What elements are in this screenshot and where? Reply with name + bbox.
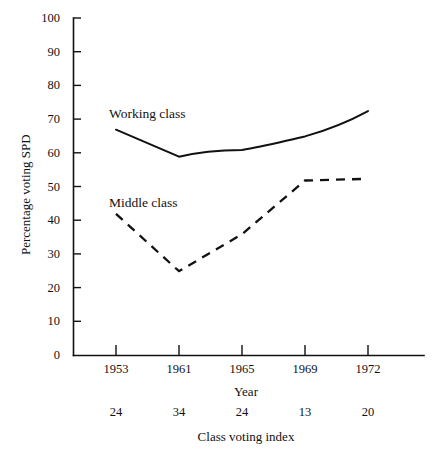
y-tick-label-10: 10 bbox=[20, 315, 60, 328]
chart-figure: 100 90 80 70 60 50 40 30 20 10 0 1953 19… bbox=[0, 0, 444, 452]
y-tick-label-80: 80 bbox=[20, 79, 60, 92]
axis-group bbox=[74, 18, 425, 356]
series-middle-class-line bbox=[116, 179, 368, 271]
series-label-working-class: Working class bbox=[109, 107, 186, 121]
y-tick-label-90: 90 bbox=[20, 46, 60, 59]
y-axis-ticks bbox=[74, 18, 82, 321]
y-axis-title: Percentage voting SPD bbox=[18, 134, 34, 255]
x-tick-label-1965: 1965 bbox=[215, 363, 269, 376]
y-tick-label-100: 100 bbox=[20, 12, 60, 25]
x-tick-label-1972: 1972 bbox=[341, 363, 395, 376]
x-tick-label-1961: 1961 bbox=[152, 363, 206, 376]
class-index-value-1969: 13 bbox=[278, 406, 332, 419]
class-index-value-1953: 24 bbox=[89, 406, 143, 419]
class-index-value-1961: 34 bbox=[152, 406, 206, 419]
x-tick-label-1969: 1969 bbox=[278, 363, 332, 376]
y-tick-label-70: 70 bbox=[20, 113, 60, 126]
class-index-axis-title: Class voting index bbox=[176, 430, 316, 443]
x-axis-ticks bbox=[116, 345, 368, 356]
y-tick-label-20: 20 bbox=[20, 282, 60, 295]
x-tick-label-1953: 1953 bbox=[89, 363, 143, 376]
class-index-value-1972: 20 bbox=[341, 406, 395, 419]
series-label-middle-class: Middle class bbox=[109, 196, 178, 210]
y-tick-label-0: 0 bbox=[20, 349, 60, 362]
class-index-value-1965: 24 bbox=[215, 406, 269, 419]
x-axis-title: Year bbox=[216, 385, 276, 398]
